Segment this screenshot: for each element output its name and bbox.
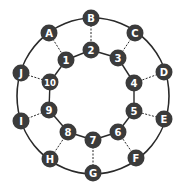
- node-label: H: [46, 154, 54, 165]
- node-8: 8: [60, 124, 77, 141]
- node-label: J: [18, 68, 23, 79]
- node-9: 9: [41, 102, 58, 119]
- node-7: 7: [85, 132, 102, 149]
- node-4: 4: [126, 75, 143, 92]
- node-E: E: [156, 111, 173, 128]
- node-label: 6: [115, 127, 122, 138]
- node-label: B: [87, 13, 95, 24]
- node-label: 2: [88, 45, 95, 56]
- node-I: I: [13, 113, 30, 130]
- node-1: 1: [58, 52, 75, 69]
- node-6: 6: [110, 124, 127, 141]
- node-2: 2: [83, 42, 100, 59]
- node-5: 5: [126, 103, 143, 120]
- node-label: 5: [131, 106, 138, 117]
- node-label: F: [133, 153, 140, 164]
- node-label: D: [160, 67, 168, 78]
- node-3: 3: [110, 50, 127, 67]
- node-label: 10: [44, 78, 56, 88]
- node-label: 1: [63, 55, 70, 66]
- node-J: J: [13, 65, 30, 82]
- node-H: H: [42, 151, 59, 168]
- node-label: E: [161, 114, 168, 125]
- node-C: C: [127, 25, 144, 42]
- node-label: 8: [65, 127, 72, 138]
- node-G: G: [85, 165, 102, 182]
- node-label: 9: [46, 105, 53, 116]
- node-label: 4: [131, 78, 138, 89]
- node-label: G: [89, 168, 97, 179]
- node-label: I: [19, 116, 23, 127]
- node-B: B: [83, 10, 100, 27]
- node-D: D: [156, 64, 173, 81]
- node-label: 7: [90, 135, 97, 146]
- ring-diagram: ABCDEFGHIJ12345678910: [0, 0, 185, 194]
- node-10: 10: [42, 74, 59, 91]
- node-label: A: [45, 28, 53, 39]
- node-label: 3: [115, 53, 122, 64]
- node-label: C: [131, 28, 138, 39]
- node-F: F: [128, 150, 145, 167]
- spoke-edges: [21, 18, 164, 173]
- node-A: A: [41, 25, 58, 42]
- nodes: ABCDEFGHIJ12345678910: [13, 10, 173, 182]
